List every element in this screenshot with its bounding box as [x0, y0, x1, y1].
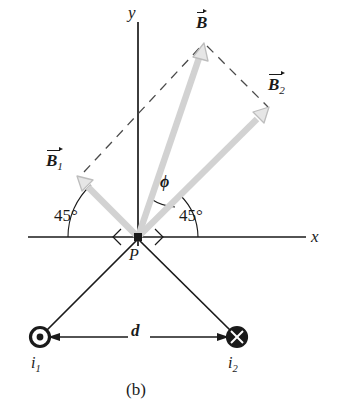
x-axis-label: x: [311, 228, 319, 245]
vector-arrow-accent-B: [196, 8, 207, 15]
vector-B-symbol: B: [196, 14, 207, 31]
angle-phi-label: ϕ: [160, 174, 169, 190]
current-i1-label: i1: [31, 355, 41, 375]
current-i1-symbol: [31, 328, 50, 347]
physics-figure: y x P d 45° 45° ϕ B B1 B2 i1 i2 (b): [0, 0, 339, 416]
angle-45-left-label: 45°: [54, 207, 78, 224]
figure-caption: (b): [126, 381, 146, 398]
vector-B1: [77, 176, 138, 237]
vector-B2-base: B: [268, 75, 279, 94]
vector-B-label: B: [196, 8, 207, 31]
current-i2-subscript: 2: [232, 363, 237, 374]
diagram-canvas: [0, 0, 339, 416]
vector-B2-subscript: 2: [279, 84, 285, 96]
vector-B2-symbol: B2: [268, 76, 285, 97]
vector-B1-subscript: 1: [57, 160, 63, 172]
current-i2-label: i2: [228, 355, 238, 375]
distance-d-label: d: [131, 322, 140, 339]
vector-B1-base: B: [46, 151, 57, 170]
vector-B2-label: B2: [268, 70, 285, 97]
point-P-label: P: [129, 247, 139, 263]
y-axis-label: y: [128, 4, 136, 21]
vector-B1-label: B1: [46, 146, 63, 173]
vector-arrow-accent-B2: [268, 70, 285, 77]
wire-to-i1: [44, 239, 138, 333]
dashed-line-b-to-b2: [207, 46, 268, 107]
point-P-marker: [134, 233, 142, 241]
wire-to-i2: [138, 239, 233, 333]
vector-arrow-accent-B1: [46, 146, 63, 153]
current-i1-subscript: 1: [35, 363, 40, 374]
vector-B1-symbol: B1: [46, 152, 63, 173]
current-i2-symbol: [228, 328, 247, 347]
angle-45-right-label: 45°: [179, 207, 203, 224]
